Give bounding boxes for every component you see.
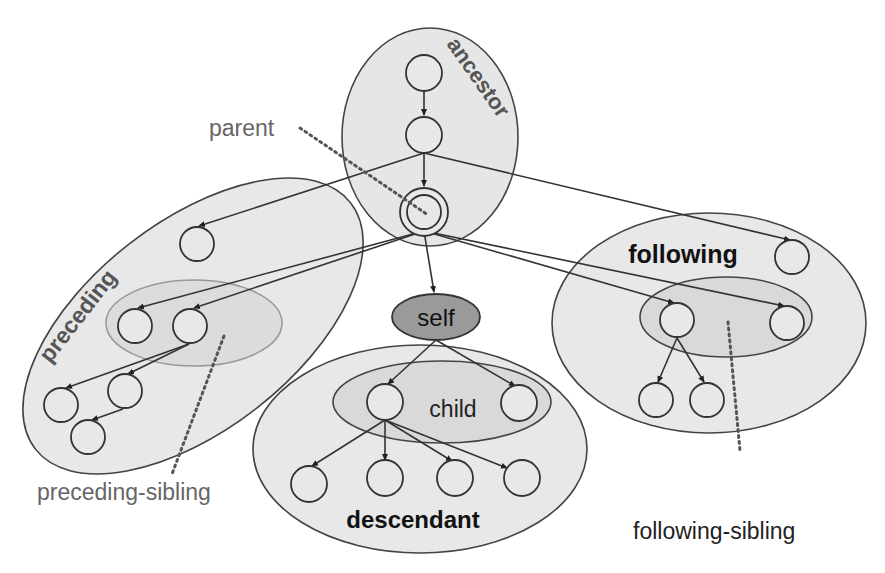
node-following-sibling-1 <box>660 303 694 337</box>
descendant-label: descendant <box>346 506 479 533</box>
node-child-2 <box>501 385 537 421</box>
node-preceding-1 <box>180 227 214 261</box>
preceding-sibling-label: preceding-sibling <box>37 479 211 505</box>
node-preceding-3 <box>108 374 142 408</box>
child-label: child <box>429 396 476 422</box>
node-preceding-4 <box>71 420 105 454</box>
parent-label: parent <box>209 115 275 141</box>
xpath-axes-diagram: self ancestor parent preceding child des… <box>0 0 885 573</box>
node-preceding-sibling-2 <box>173 309 207 343</box>
node-following-sibling-2 <box>770 306 804 340</box>
node-descendant-2 <box>367 460 403 496</box>
node-child-1 <box>367 384 403 420</box>
following-sibling-label: following-sibling <box>633 518 795 544</box>
node-ancestor-2 <box>406 117 442 153</box>
node-following-3 <box>690 383 724 417</box>
node-descendant-4 <box>504 460 540 496</box>
node-preceding-2 <box>44 388 78 422</box>
node-ancestor-1 <box>406 55 442 91</box>
node-descendant-1 <box>291 466 327 502</box>
self-label: self <box>417 304 455 331</box>
node-preceding-sibling-1 <box>118 309 152 343</box>
following-label: following <box>628 240 738 268</box>
node-following-1 <box>775 240 809 274</box>
node-descendant-3 <box>437 460 473 496</box>
self-node: self <box>392 294 480 340</box>
node-following-2 <box>639 383 673 417</box>
